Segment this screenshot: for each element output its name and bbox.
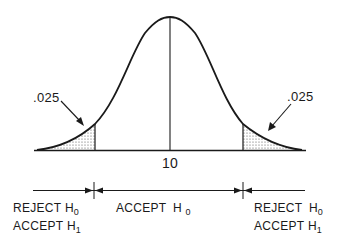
left-region-label-reject: REJECT H0: [13, 201, 79, 215]
right-boundary-marker: [234, 182, 252, 199]
subscript: 1: [317, 225, 322, 235]
accept-text: ACCEPT H: [254, 219, 317, 233]
left-area-pointer-arrow: [61, 101, 84, 126]
right-region-label-accept: ACCEPT H1: [254, 219, 322, 233]
left-rejection-region: [37, 124, 95, 150]
right-area-pointer-arrow: [268, 104, 291, 131]
left-tail-area-label: .025: [33, 91, 60, 105]
left-region-label-accept: ACCEPT H1: [13, 219, 81, 233]
right-tail-area-label: .025: [287, 90, 314, 104]
left-boundary-marker: [85, 182, 103, 199]
center-region-label: ACCEPT H 0: [116, 201, 191, 215]
subscript: 0: [186, 207, 191, 217]
reject-text: REJECT H: [13, 201, 74, 215]
accept-text: ACCEPT H: [116, 201, 182, 215]
mean-value-label: 10: [162, 156, 178, 170]
right-region-label-reject: REJECT H0: [254, 201, 323, 215]
accept-text: ACCEPT H: [13, 219, 76, 233]
subscript: 1: [76, 225, 81, 235]
subscript: 0: [74, 207, 79, 217]
reject-text: REJECT H: [254, 201, 318, 215]
subscript: 0: [318, 207, 323, 217]
